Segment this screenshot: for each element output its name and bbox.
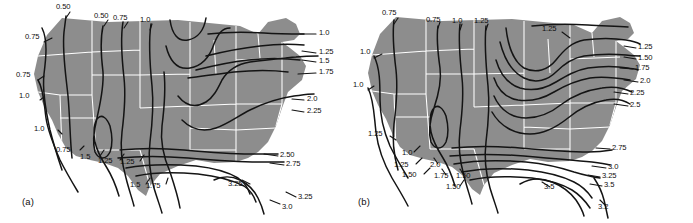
contour-label: 0.75	[113, 14, 127, 22]
contour-label: 1.50	[638, 54, 652, 62]
contour-label: 2.75	[286, 160, 300, 168]
contour-label: 1.25	[120, 158, 134, 166]
contour-label: 3.0	[282, 203, 292, 211]
contour-label: 2.25	[630, 89, 644, 97]
contour-label: 1.25	[474, 17, 488, 25]
contour-label: 1.25	[368, 130, 382, 138]
contour-label: 3.0	[608, 163, 618, 171]
contour-label: 1.0	[402, 149, 412, 157]
contour-label: 2.75	[612, 144, 626, 152]
panel-caption-b: (b)	[358, 196, 370, 207]
contour-label: 1.0	[34, 125, 44, 133]
contour-label: 3.2	[598, 203, 608, 211]
contour-label: 0.75	[426, 16, 440, 24]
contour-label: 1.75	[434, 172, 448, 180]
contour-label: 0.75	[25, 33, 39, 41]
contour-label: 2.50	[280, 151, 294, 159]
contour-label: 2.25	[307, 107, 321, 115]
contour-label: 3.25	[228, 180, 242, 188]
contour-label: 1.50	[456, 172, 470, 180]
contour-label: 0.75	[56, 146, 70, 154]
contour-label: 3.5	[544, 183, 554, 191]
contour-label: 1.75	[146, 182, 160, 190]
contour-label: 1.5	[80, 153, 90, 161]
contour-label: 1.25	[98, 157, 112, 165]
map-b-svg	[346, 0, 693, 223]
contour-label: 2.0	[430, 161, 440, 169]
contour-label: 1.25	[542, 25, 556, 33]
contour-label: 1.0	[452, 17, 462, 25]
contour-label: 1.25	[319, 48, 333, 56]
contour-label: 1.50	[402, 171, 416, 179]
contour-label: 0.75	[382, 9, 396, 17]
contour-label: 1.25	[638, 43, 652, 51]
contour-map-figure: 0.50 0.50 0.75 1.0 0.75 0.75 1.0 1.0 0.7…	[0, 0, 693, 223]
contour-label: 1.5	[319, 57, 329, 65]
contour-label: 0.50	[94, 12, 108, 20]
contour-label: 1.0	[19, 92, 29, 100]
contour-label: 2.0	[307, 95, 317, 103]
contour-label: 1.75	[319, 68, 333, 76]
contour-label: 3.25	[298, 193, 312, 201]
contour-label: 2.5	[630, 101, 640, 109]
contour-label: 3.25	[602, 172, 616, 180]
map-a-svg	[0, 0, 347, 223]
contour-label: 1.0	[140, 16, 150, 24]
contour-label: 3.5	[604, 181, 614, 189]
map-panel-a: 0.50 0.50 0.75 1.0 0.75 0.75 1.0 1.0 0.7…	[0, 0, 347, 223]
map-panel-b: 0.75 0.75 1.0 1.25 1.25 1.0 1.0 1.25 1.0…	[346, 0, 693, 223]
contour-label: 1.0	[360, 48, 370, 56]
contour-label: 2.0	[640, 77, 650, 85]
contour-label: 0.50	[56, 3, 70, 11]
contour-label: 1.0	[353, 81, 363, 89]
contour-label: 0.75	[16, 71, 30, 79]
contour-label: 1.50	[446, 183, 460, 191]
contour-label: 1.0	[319, 29, 329, 37]
contour-label: 1.5	[130, 181, 140, 189]
contour-label: 1.25	[394, 161, 408, 169]
panel-caption-a: (a)	[22, 196, 34, 207]
contour-label: 1.75	[635, 64, 649, 72]
